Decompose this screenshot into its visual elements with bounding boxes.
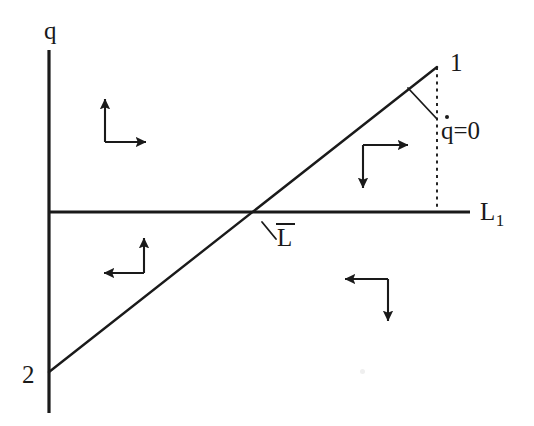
lower-endpoint-label: 2 bbox=[22, 362, 35, 387]
qdot-zero-locus-line bbox=[49, 67, 437, 372]
vector-field-lower-right bbox=[345, 279, 388, 321]
locus-label-leader-line bbox=[408, 88, 437, 119]
steady-state-label: L bbox=[277, 225, 292, 250]
steady-state-label-leader-line bbox=[262, 222, 276, 239]
upper-endpoint-label: 1 bbox=[450, 50, 463, 75]
vector-field-upper-right bbox=[363, 145, 408, 188]
vector-field-upper-left bbox=[105, 99, 146, 142]
locus-label: q=0 bbox=[441, 118, 480, 143]
locus-label-equation: =0 bbox=[454, 117, 481, 144]
locus-label-variable: q bbox=[441, 118, 454, 143]
x-axis-label-base: L bbox=[480, 198, 495, 225]
vector-field-lower-left bbox=[104, 238, 144, 273]
x-axis-label-subscript: 1 bbox=[496, 211, 505, 230]
steady-state-label-base: L bbox=[277, 225, 292, 250]
scan-artifact-speck bbox=[360, 369, 365, 374]
phase-diagram-figure: q 1 2 L1 L q=0 bbox=[0, 0, 534, 426]
x-axis-label: L1 bbox=[480, 199, 504, 229]
y-axis-label: q bbox=[44, 18, 57, 43]
